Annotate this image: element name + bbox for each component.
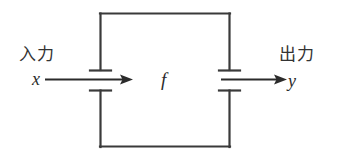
diagram-canvas [0,0,338,165]
block-diagram-figure: 入力 x f 出力 y [0,0,338,165]
